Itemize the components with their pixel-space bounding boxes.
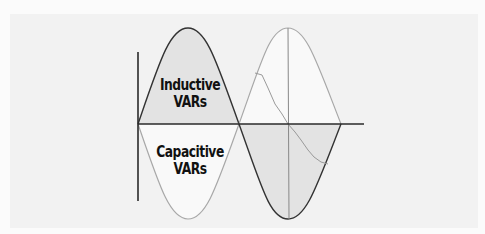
capacitive-vars-label: Capacitive VARs	[149, 144, 231, 178]
var-waveform-diagram	[0, 0, 485, 234]
second-wave-positive-lobe	[239, 28, 341, 124]
second-wave-negative-lobe	[239, 124, 341, 219]
inductive-label-line1: Inductive	[153, 77, 227, 94]
inductive-label-line2: VARs	[153, 94, 227, 111]
inductive-vars-label: Inductive VARs	[153, 77, 227, 111]
capacitive-label-line2: VARs	[149, 161, 231, 178]
capacitive-label-line1: Capacitive	[149, 144, 231, 161]
